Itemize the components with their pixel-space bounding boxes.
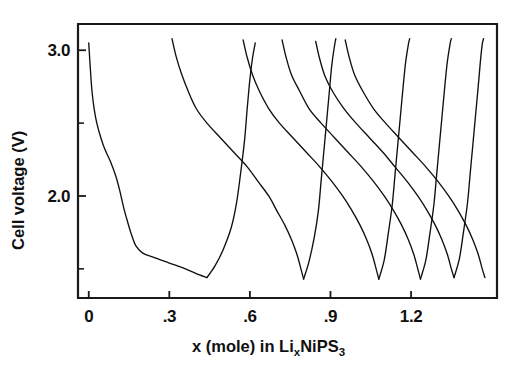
x-axis-label-mid: NiPS — [300, 337, 339, 355]
curve-charge-5 — [454, 39, 484, 278]
data-curves — [89, 39, 485, 279]
plot-frame — [78, 24, 497, 298]
curve-charge-1 — [207, 43, 255, 278]
y-tick-label-1: 3.0 — [48, 41, 70, 60]
x-axis-label-lead: x (mole) in Li — [192, 337, 294, 355]
curve-discharge-5 — [316, 41, 454, 277]
y-tick-labels: 2.03.0 — [48, 41, 70, 206]
cell-voltage-chart: 0.3.6.91.2 2.03.0 Cell voltage (V) x (mo… — [0, 0, 511, 371]
axes — [78, 24, 497, 298]
curve-charge-4 — [420, 39, 451, 279]
curve-discharge-2 — [172, 39, 304, 279]
x-tick-labels: 0.3.6.91.2 — [84, 307, 422, 326]
curve-initial-discharge — [89, 43, 207, 278]
curve-charge-2 — [304, 39, 336, 279]
y-axis-label-text: Cell voltage (V) — [9, 131, 27, 250]
curve-discharge-4 — [282, 40, 420, 279]
x-axis-label-text: x (mole) in LixNiPS3 — [192, 337, 345, 358]
x-tick-label-3: .9 — [324, 307, 337, 326]
x-tick-label-4: 1.2 — [400, 307, 422, 326]
curve-charge-3 — [379, 39, 410, 279]
y-axis-label: Cell voltage (V) — [9, 131, 27, 250]
x-axis-label-sub-3: 3 — [339, 346, 345, 358]
x-tick-label-1: .3 — [163, 307, 176, 326]
x-axis-label: x (mole) in LixNiPS3 — [192, 337, 345, 358]
curve-discharge-6 — [345, 40, 485, 278]
x-tick-label-2: .6 — [243, 307, 256, 326]
figure-container: 0.3.6.91.2 2.03.0 Cell voltage (V) x (mo… — [0, 0, 511, 371]
curve-discharge-3 — [243, 40, 379, 279]
x-tick-label-0: 0 — [84, 307, 93, 326]
y-tick-label-0: 2.0 — [48, 187, 70, 206]
